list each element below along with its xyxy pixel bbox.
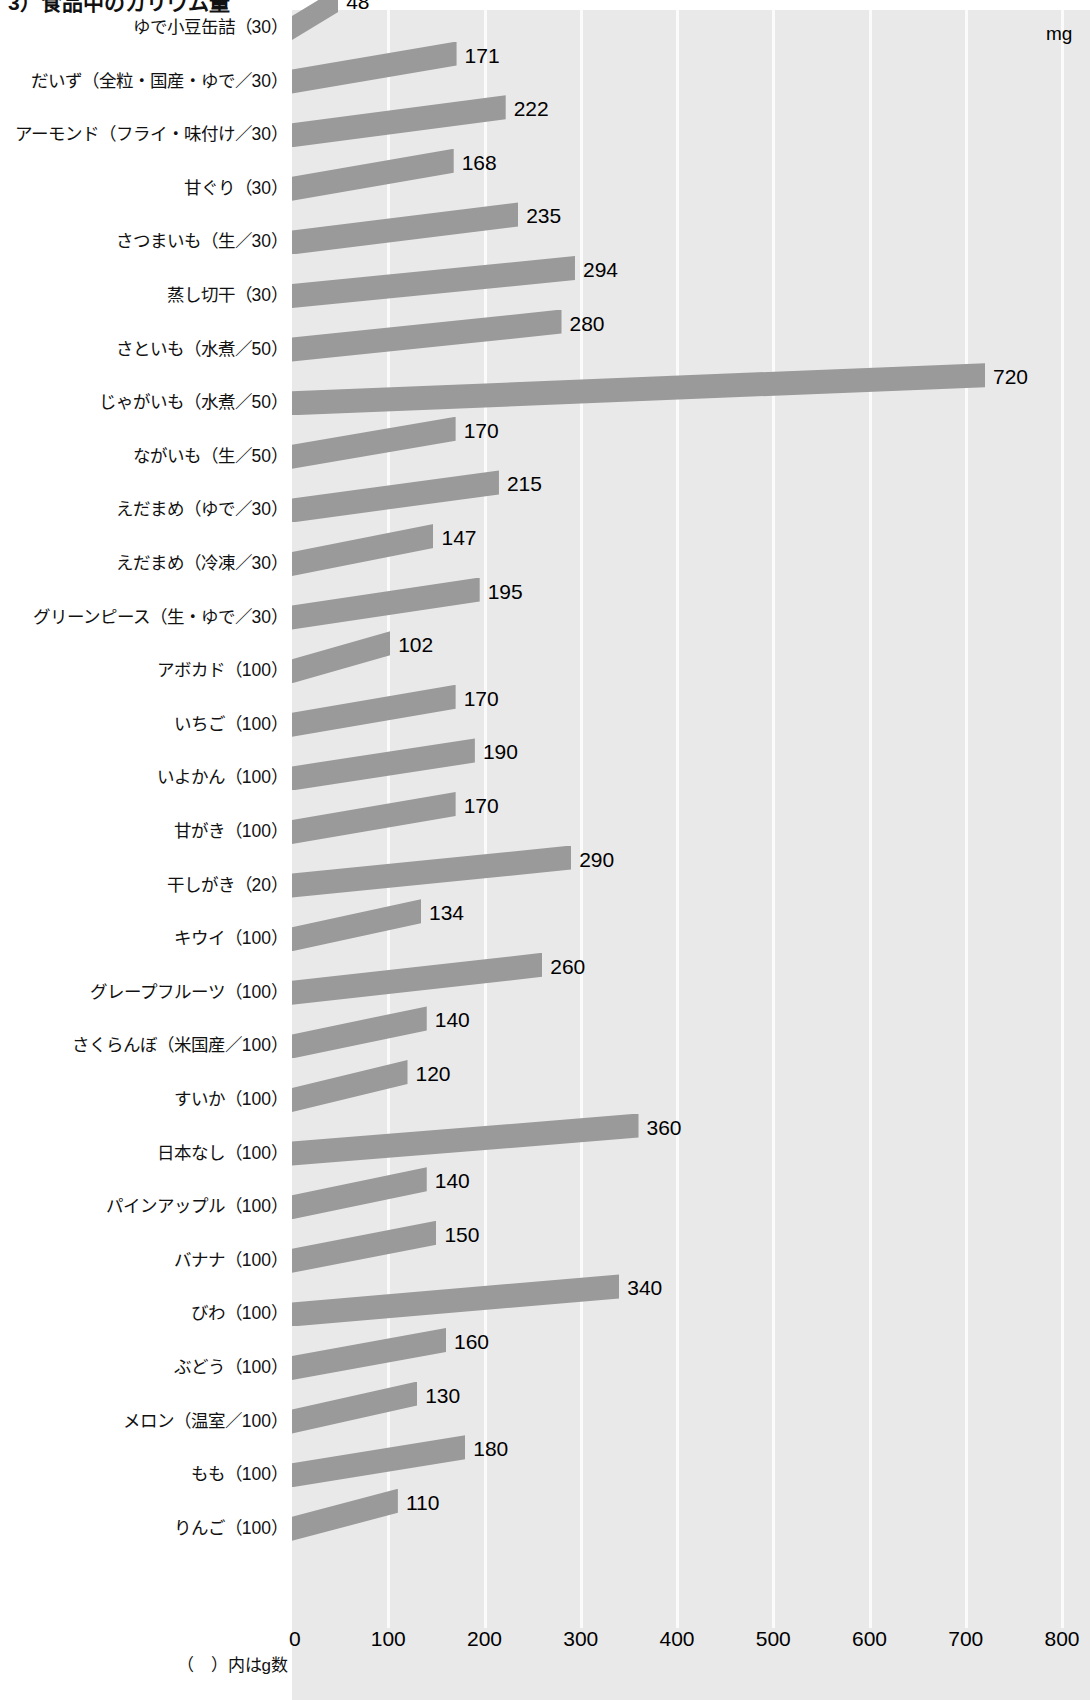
bar-value-label: 235 (526, 205, 561, 226)
category-label: りんご（100） (0, 1520, 288, 1538)
category-label: バナナ（100） (0, 1252, 288, 1270)
category-label: 日本なし（100） (0, 1145, 288, 1163)
bar-value-label: 260 (550, 956, 585, 977)
category-label: いよかん（100） (0, 769, 288, 787)
gridline-500 (772, 10, 775, 1628)
axis-unit-label: mg (1046, 24, 1072, 43)
bar-value-label: 171 (465, 45, 500, 66)
potassium-bar-chart: 3）食品中のカリウム量 4817122216823529428072017021… (0, 0, 1090, 1700)
category-label: えだまめ（冷凍／30） (0, 555, 288, 573)
bar-value-label: 168 (462, 152, 497, 173)
category-label: メロン（温室／100） (0, 1413, 288, 1431)
bar-value-label: 140 (435, 1009, 470, 1030)
bar-value-label: 170 (464, 688, 499, 709)
category-label: ぶどう（100） (0, 1359, 288, 1377)
bar-value-label: 170 (464, 420, 499, 441)
x-tick-700: 700 (948, 1628, 983, 1649)
category-label: だいず（全粒・国産・ゆで／30） (0, 73, 288, 91)
x-tick-300: 300 (563, 1628, 598, 1649)
gridline-700 (965, 10, 968, 1628)
category-label: さくらんぼ（米国産／100） (0, 1037, 288, 1055)
axis-note: （ ）内はg数 (138, 1657, 288, 1674)
bar-value-label: 48 (346, 0, 369, 12)
bar-value-label: 110 (406, 1492, 439, 1513)
x-tick-600: 600 (852, 1628, 887, 1649)
x-tick-800: 800 (1044, 1628, 1079, 1649)
category-label: じゃがいも（水煮／50） (0, 394, 288, 412)
category-label: 甘ぐり（30） (0, 180, 288, 198)
bar-value-label: 130 (425, 1385, 460, 1406)
bar-value-label: 290 (579, 849, 614, 870)
gridline-300 (580, 10, 583, 1628)
bar-value-label: 340 (627, 1277, 662, 1298)
plot-area-right-margin (1064, 10, 1090, 1628)
bar-value-label: 102 (398, 634, 433, 655)
x-tick-500: 500 (756, 1628, 791, 1649)
category-label: もも（100） (0, 1466, 288, 1484)
bar-value-label: 294 (583, 259, 618, 280)
gridline-600 (869, 10, 872, 1628)
bar-value-label: 190 (483, 741, 518, 762)
bar-value-label: 280 (570, 313, 605, 334)
bar-value-label: 195 (488, 581, 523, 602)
bar-value-label: 720 (993, 366, 1028, 387)
category-label: アーモンド（フライ・味付け／30） (0, 126, 288, 144)
bar-value-label: 147 (441, 527, 476, 548)
category-label: さといも（水煮／50） (0, 341, 288, 359)
category-label: ながいも（生／50） (0, 448, 288, 466)
category-label: グレープフルーツ（100） (0, 984, 288, 1002)
bar-value-label: 170 (464, 795, 499, 816)
bar-value-label: 140 (435, 1170, 470, 1191)
category-label: えだまめ（ゆで／30） (0, 501, 288, 519)
bar-value-label: 120 (416, 1063, 451, 1084)
bar-value-label: 222 (514, 98, 549, 119)
x-tick-100: 100 (371, 1628, 406, 1649)
bar-value-label: 160 (454, 1331, 489, 1352)
bar-value-label: 134 (429, 902, 464, 923)
page-title: 3）食品中のカリウム量 (8, 0, 230, 16)
category-label: ゆで小豆缶詰（30） (0, 19, 288, 37)
category-label: すいか（100） (0, 1091, 288, 1109)
gridline-200 (484, 10, 487, 1628)
gridline-400 (676, 10, 679, 1628)
category-label: びわ（100） (0, 1305, 288, 1323)
category-label: 干しがき（20） (0, 877, 288, 895)
category-label: いちご（100） (0, 716, 288, 734)
category-label: キウイ（100） (0, 930, 288, 948)
category-label: 甘がき（100） (0, 823, 288, 841)
category-label: グリーンピース（生・ゆで／30） (0, 609, 288, 627)
category-label: アボカド（100） (0, 662, 288, 680)
category-label: パインアップル（100） (0, 1198, 288, 1216)
bar-value-label: 215 (507, 473, 542, 494)
category-label: 蒸し切干（30） (0, 287, 288, 305)
category-label: さつまいも（生／30） (0, 233, 288, 251)
bar-value-label: 180 (473, 1438, 508, 1459)
x-tick-200: 200 (467, 1628, 502, 1649)
bar-value-label: 360 (647, 1117, 682, 1138)
x-tick-0: 0 (289, 1628, 301, 1649)
x-tick-400: 400 (659, 1628, 694, 1649)
bar-value-label: 150 (444, 1224, 479, 1245)
